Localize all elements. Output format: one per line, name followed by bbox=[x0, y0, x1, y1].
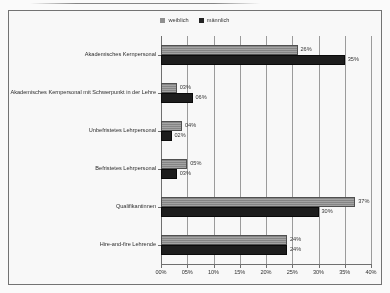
bar-group-männlich: 03% bbox=[161, 169, 371, 179]
bar-value-label: 04% bbox=[185, 123, 196, 129]
x-tick-label: 25% bbox=[287, 270, 298, 276]
category-row: Qualifikantinnen37%30% bbox=[161, 188, 371, 226]
legend-swatch-maennlich-icon bbox=[199, 18, 204, 23]
bar-value-label: 24% bbox=[290, 247, 301, 253]
x-tick-label: 15% bbox=[234, 270, 245, 276]
plot-area: Akademisches Kernpersonal26%35%Akademisc… bbox=[161, 36, 371, 264]
category-label: Qualifikantinnen bbox=[6, 203, 156, 209]
category-row: Hire-and-fire Lehrende24%24% bbox=[161, 226, 371, 264]
legend-item-maennlich: männlich bbox=[199, 18, 230, 24]
x-tick bbox=[240, 264, 241, 268]
x-tick-label: 10% bbox=[208, 270, 219, 276]
bar-weiblich bbox=[161, 83, 177, 93]
x-tick-label: 20% bbox=[260, 270, 271, 276]
x-tick bbox=[214, 264, 215, 268]
bar-group-weiblich: 03% bbox=[161, 83, 371, 93]
bar-value-label: 35% bbox=[348, 57, 359, 63]
x-tick bbox=[292, 264, 293, 268]
bar-weiblich bbox=[161, 235, 287, 245]
chart-legend: weiblich männlich bbox=[9, 18, 381, 24]
bar-weiblich bbox=[161, 197, 355, 207]
legend-swatch-weiblich-icon bbox=[160, 18, 165, 23]
bar-value-label: 03% bbox=[180, 171, 191, 177]
bar-value-label: 37% bbox=[358, 199, 369, 205]
category-label: Befristetes Lehrpersonal bbox=[6, 165, 156, 171]
x-tick-label: 05% bbox=[182, 270, 193, 276]
bar-group-männlich: 30% bbox=[161, 207, 371, 217]
bar-value-label: 06% bbox=[196, 95, 207, 101]
bar-group-männlich: 35% bbox=[161, 55, 371, 65]
bar-group-männlich: 24% bbox=[161, 245, 371, 255]
category-row: Befristetes Lehrpersonal05%03% bbox=[161, 150, 371, 188]
bar-value-label: 24% bbox=[290, 237, 301, 243]
category-label: Unbefristetes Lehrpersonal bbox=[6, 127, 156, 133]
category-label: Akademisches Kernpersonal bbox=[6, 51, 156, 57]
bar-value-label: 05% bbox=[190, 161, 201, 167]
bar-group-weiblich: 37% bbox=[161, 197, 371, 207]
legend-item-weiblich: weiblich bbox=[160, 18, 188, 24]
bar-group-weiblich: 24% bbox=[161, 235, 371, 245]
x-tick bbox=[371, 264, 372, 268]
x-tick-label: 40% bbox=[365, 270, 376, 276]
bar-weiblich bbox=[161, 121, 182, 131]
bar-männlich bbox=[161, 131, 172, 141]
bar-value-label: 30% bbox=[322, 209, 333, 215]
legend-label-maennlich: männlich bbox=[207, 18, 230, 24]
bar-weiblich bbox=[161, 159, 187, 169]
x-tick-label: 30% bbox=[313, 270, 324, 276]
category-rows: Akademisches Kernpersonal26%35%Akademisc… bbox=[161, 36, 371, 264]
category-row: Akademisches Kernpersonal26%35% bbox=[161, 36, 371, 74]
bar-value-label: 03% bbox=[180, 85, 191, 91]
bar-group-männlich: 02% bbox=[161, 131, 371, 141]
category-row: Unbefristetes Lehrpersonal04%02% bbox=[161, 112, 371, 150]
bar-männlich bbox=[161, 55, 345, 65]
x-tick bbox=[345, 264, 346, 268]
category-label: Hire-and-fire Lehrende bbox=[6, 241, 156, 247]
x-tick bbox=[266, 264, 267, 268]
x-tick bbox=[187, 264, 188, 268]
bar-value-label: 02% bbox=[175, 133, 186, 139]
bar-weiblich bbox=[161, 45, 298, 55]
x-tick bbox=[161, 264, 162, 268]
figure-frame: weiblich männlich Akademisches Kernperso… bbox=[8, 10, 382, 285]
bar-group-weiblich: 26% bbox=[161, 45, 371, 55]
bar-männlich bbox=[161, 207, 319, 217]
bar-group-weiblich: 05% bbox=[161, 159, 371, 169]
legend-label-weiblich: weiblich bbox=[168, 18, 188, 24]
bar-männlich bbox=[161, 93, 193, 103]
bar-group-weiblich: 04% bbox=[161, 121, 371, 131]
x-tick-label: 00% bbox=[155, 270, 166, 276]
bar-männlich bbox=[161, 245, 287, 255]
bar-group-männlich: 06% bbox=[161, 93, 371, 103]
scan-artifact-line bbox=[30, 3, 260, 4]
category-label: Akademisches Kernpersonal mit Schwerpunk… bbox=[6, 89, 156, 95]
x-tick-label: 35% bbox=[339, 270, 350, 276]
gridline-40pct bbox=[371, 36, 372, 264]
bar-value-label: 26% bbox=[301, 47, 312, 53]
x-tick bbox=[319, 264, 320, 268]
bar-männlich bbox=[161, 169, 177, 179]
category-row: Akademisches Kernpersonal mit Schwerpunk… bbox=[161, 74, 371, 112]
